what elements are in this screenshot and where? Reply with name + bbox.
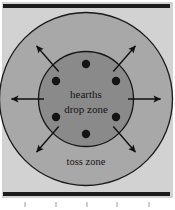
- toss-zone-label: toss zone: [67, 156, 106, 167]
- hearth-dot: [82, 60, 90, 68]
- drop-zone-label: drop zone: [64, 103, 108, 115]
- hearth-dot: [82, 130, 90, 138]
- hearth-dot: [112, 77, 120, 85]
- hearths-label: hearths: [70, 88, 102, 100]
- caption-ghost-marks: [0, 200, 175, 210]
- zone-diagram: hearths drop zone toss zone: [0, 0, 175, 210]
- hearth-dot: [112, 113, 120, 121]
- hearth-dot: [52, 77, 60, 85]
- figure-root: hearths drop zone toss zone: [0, 0, 175, 210]
- hearth-dot: [52, 113, 60, 121]
